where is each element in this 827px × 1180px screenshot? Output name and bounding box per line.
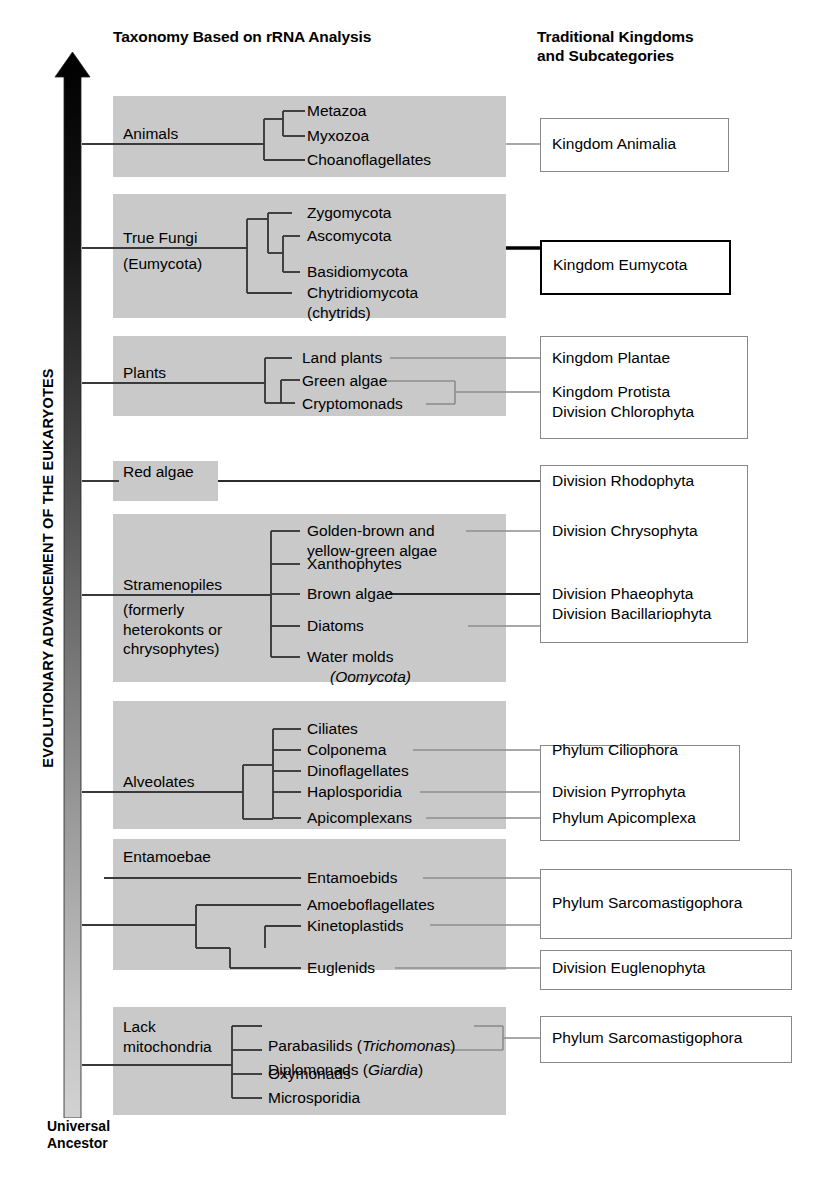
clade-label-entamoebae: Entamoebae [123,847,211,867]
tip-dinoflagellates: Dinoflagellates [307,761,409,781]
tip-metazoa: Metazoa [307,101,366,121]
tip-choanoflagellates: Choanoflagellates [307,150,431,170]
clade-label-alveolates: Alveolates [123,772,195,792]
tip-brown-algae: Brown algae [307,584,393,604]
tip-chytridiomycota: Chytridiomycota (chytrids) [307,283,418,322]
clade-label-lack-mitochondria: Lack mitochondria [123,1017,212,1056]
tip-xanthophytes: Xanthophytes [307,554,402,574]
box-label-phylum-ciliophora: Phylum Ciliophora [552,740,678,760]
clade-label-stramenopiles: Stramenopiles [123,575,222,595]
tip-ciliates: Ciliates [307,719,358,739]
box-label-kingdom-plantae: Kingdom Plantae [552,348,670,368]
box-label-division-euglenophyta: Division Euglenophyta [552,958,705,978]
clade-label-true-fungi: True Fungi [123,228,197,248]
clade-label-eumycota: (Eumycota) [123,254,202,274]
tip-land-plants: Land plants [302,348,382,368]
tip-zygomycota: Zygomycota [307,203,391,223]
box-label-kingdom-protista: Kingdom Protista Division Chlorophyta [552,382,694,421]
box-label-division-pyrrophyta: Division Pyrrophyta [552,782,686,802]
tip-basidiomycota: Basidiomycota [307,262,408,282]
box-label-sarcomastigophora-1: Phylum Sarcomastigophora [552,893,742,913]
tip-microsporidia: Microsporidia [268,1088,360,1108]
box-label-kingdom-eumycota: Kingdom Eumycota [553,255,687,275]
tip-oomycota: (Oomycota) [330,667,411,687]
tip-myxozoa: Myxozoa [307,126,369,146]
tip-haplosporidia: Haplosporidia [307,782,402,802]
tip-amoeboflagellates: Amoeboflagellates [307,895,435,915]
tip-water-molds: Water molds [307,647,393,667]
tip-cryptomonads: Cryptomonads [302,394,403,414]
box-label-division-phaeophyta: Division Phaeophyta Division Bacillariop… [552,584,711,623]
box-label-division-chrysophyta: Division Chrysophyta [552,521,698,541]
diagram-root: Taxonomy Based on rRNA Analysis Traditio… [0,0,827,1180]
tip-oomycota-italic: (Oomycota) [330,668,411,685]
tip-oxymonads: Oxymonads [268,1064,351,1084]
box-label-sarcomastigophora-2: Phylum Sarcomastigophora [552,1028,742,1048]
tip-parabasilids-post: ) [450,1037,455,1054]
tip-diplomonads-post: ) [418,1061,423,1078]
tip-colponema: Colponema [307,740,386,760]
clade-label-stramenopiles-note: (formerly heterokonts or chrysophytes) [123,600,222,659]
clade-label-red-algae: Red algae [123,462,194,482]
box-label-phylum-apicomplexa: Phylum Apicomplexa [552,808,696,828]
tip-apicomplexans: Apicomplexans [307,808,412,828]
tip-entamoebids: Entamoebids [307,868,397,888]
tip-diplomonads-genus: Giardia [368,1061,418,1078]
tip-diatoms: Diatoms [307,616,364,636]
clade-label-animals: Animals [123,124,178,144]
box-label-division-rhodophyta: Division Rhodophyta [552,471,694,491]
tip-green-algae: Green algae [302,371,387,391]
box-label-kingdom-animalia: Kingdom Animalia [552,134,676,154]
tip-kinetoplastids: Kinetoplastids [307,916,404,936]
clade-label-plants: Plants [123,363,166,383]
tip-euglenids: Euglenids [307,958,375,978]
tip-ascomycota: Ascomycota [307,226,391,246]
